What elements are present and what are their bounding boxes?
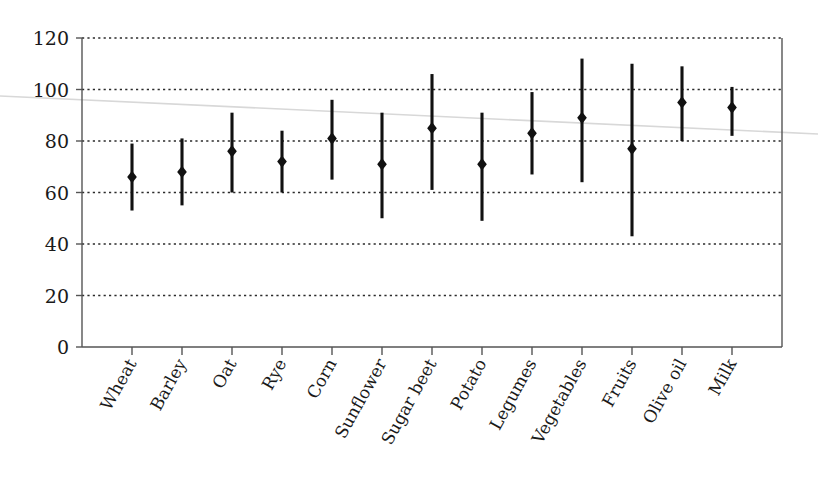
x-axis-tick-label: Rye <box>257 355 290 393</box>
data-point-group <box>377 113 387 219</box>
x-axis-tick-label: Milk <box>704 355 741 399</box>
diamond-marker <box>427 122 437 134</box>
data-point-group <box>227 113 237 193</box>
diamond-marker <box>127 171 137 183</box>
x-axis-tick-label: Legumes <box>485 355 540 433</box>
diamond-marker <box>677 96 687 108</box>
y-axis-tick-label: 80 <box>45 130 69 152</box>
range-plot: 020406080100120WheatBarleyOatRyeCornSunf… <box>0 0 818 478</box>
y-axis-tick-label: 0 <box>57 336 69 358</box>
y-axis-tick-label: 100 <box>33 79 69 101</box>
data-point-group <box>477 113 487 221</box>
diamond-marker <box>627 143 637 155</box>
diamond-marker <box>327 132 337 144</box>
diamond-marker <box>277 155 287 167</box>
data-point-group <box>577 59 587 183</box>
data-point-group <box>427 74 437 190</box>
diamond-marker <box>727 101 737 113</box>
data-point-group <box>127 144 137 211</box>
x-axis-tick-label: Olive oil <box>639 355 691 427</box>
data-point-group <box>727 87 737 136</box>
scan-artifact-line <box>0 96 818 134</box>
y-axis-tick-label: 20 <box>45 285 69 307</box>
x-axis-tick-label: Corn <box>302 355 340 402</box>
data-point-group <box>177 138 187 205</box>
data-point-group <box>677 66 687 141</box>
chart-container: 020406080100120WheatBarleyOatRyeCornSunf… <box>0 0 818 478</box>
data-point-group <box>527 92 537 174</box>
y-axis-tick-label: 40 <box>45 233 69 255</box>
x-axis-tick-label: Barley <box>146 355 191 414</box>
x-axis-tick-label: Oat <box>208 355 241 392</box>
data-point-group <box>277 131 287 193</box>
diamond-marker <box>527 127 537 139</box>
x-axis-tick-label: Potato <box>446 355 490 413</box>
diamond-marker <box>477 158 487 170</box>
y-axis-tick-label: 60 <box>45 182 69 204</box>
y-axis-tick-label: 120 <box>33 27 69 49</box>
diamond-marker <box>227 145 237 157</box>
x-axis-tick-label: Fruits <box>598 355 641 410</box>
diamond-marker <box>377 158 387 170</box>
diamond-marker <box>177 166 187 178</box>
x-axis-tick-label: Wheat <box>96 355 140 413</box>
